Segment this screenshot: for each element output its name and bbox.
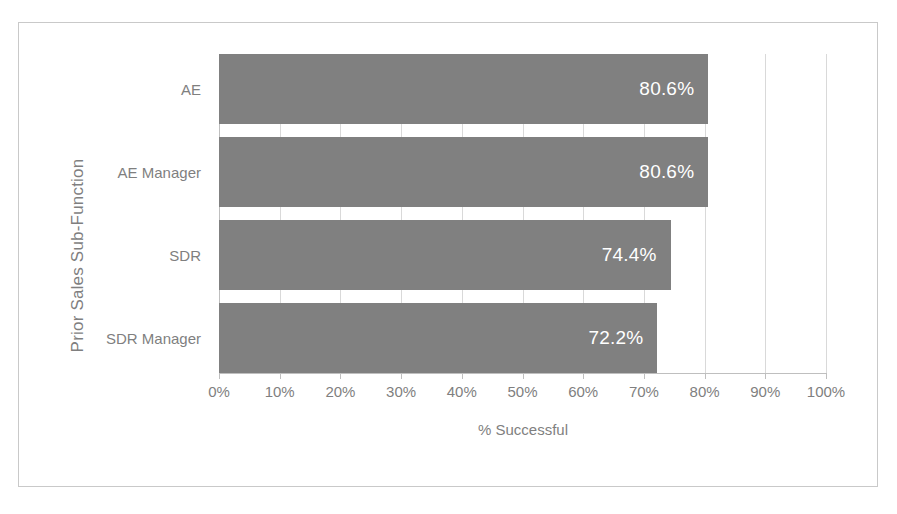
bars-layer: 80.6% 80.6% 74.4% 72.2% xyxy=(219,54,826,373)
x-axis-tick-label-60: 60% xyxy=(548,383,618,400)
x-axis-tick-labels: 0%10%20%30%40%50%60%70%80%90%100% xyxy=(219,383,827,407)
bar-value-label: 80.6% xyxy=(639,78,708,100)
x-axis-tick-70 xyxy=(644,373,645,379)
chart-frame: Prior Sales Sub-Function AE AE Manager S… xyxy=(18,22,878,487)
x-axis-tick-100 xyxy=(826,373,827,379)
bar-value-label: 80.6% xyxy=(639,161,708,183)
gridline-100 xyxy=(826,54,827,373)
bar-ae[interactable]: 80.6% xyxy=(219,54,708,124)
x-axis-tick-80 xyxy=(705,373,706,379)
x-axis-tick-40 xyxy=(462,373,463,379)
bar-value-label: 74.4% xyxy=(602,244,671,266)
x-axis-tick-20 xyxy=(340,373,341,379)
x-axis-tick-label-80: 80% xyxy=(670,383,740,400)
y-axis-tick-label-sdr: SDR xyxy=(79,220,213,290)
bar-row: 72.2% xyxy=(219,303,826,373)
x-axis-tick-label-10: 10% xyxy=(245,383,315,400)
x-axis-tick-label-90: 90% xyxy=(730,383,800,400)
bar-sdr-manager[interactable]: 72.2% xyxy=(219,303,657,373)
y-axis-tick-label-ae: AE xyxy=(79,54,213,124)
x-axis-tick-label-20: 20% xyxy=(305,383,375,400)
bar-value-label: 72.2% xyxy=(588,327,657,349)
y-axis-tick-label-ae-manager: AE Manager xyxy=(79,137,213,207)
x-axis-tick-label-30: 30% xyxy=(366,383,436,400)
x-axis-tick-50 xyxy=(523,373,524,379)
plot-area: 80.6% 80.6% 74.4% 72.2% xyxy=(219,54,826,373)
x-axis-tick-label-70: 70% xyxy=(609,383,679,400)
x-axis-title: % Successful xyxy=(219,421,827,438)
x-axis-tick-label-100: 100% xyxy=(791,383,861,400)
bar-sdr[interactable]: 74.4% xyxy=(219,220,671,290)
bar-row: 80.6% xyxy=(219,54,826,124)
bar-row: 80.6% xyxy=(219,137,826,207)
x-axis-tick-60 xyxy=(583,373,584,379)
x-axis-tick-label-40: 40% xyxy=(427,383,497,400)
x-axis-tick-label-0: 0% xyxy=(184,383,254,400)
y-axis-tick-label-sdr-manager: SDR Manager xyxy=(79,303,213,373)
x-axis-tick-90 xyxy=(765,373,766,379)
bar-ae-manager[interactable]: 80.6% xyxy=(219,137,708,207)
bar-row: 74.4% xyxy=(219,220,826,290)
x-axis-tick-30 xyxy=(401,373,402,379)
y-axis-tick-labels: AE AE Manager SDR SDR Manager xyxy=(79,54,213,373)
x-axis-tick-10 xyxy=(280,373,281,379)
x-axis-tick-0 xyxy=(219,373,220,379)
x-axis-tick-label-50: 50% xyxy=(488,383,558,400)
